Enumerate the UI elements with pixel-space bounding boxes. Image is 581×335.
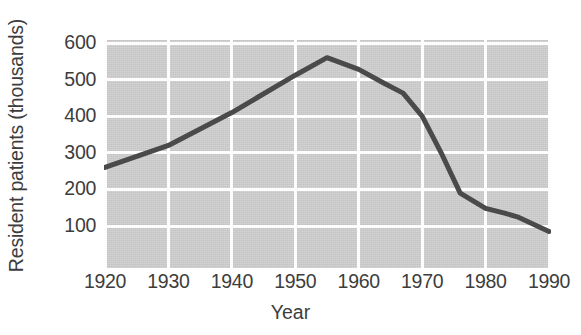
chart-figure: Resident patients (thousands) 1002003004… — [0, 0, 581, 335]
x-axis-tick-labels: 19201930194019501960197019801990 — [0, 272, 581, 298]
x-tick-label-1990: 1990 — [514, 272, 581, 292]
y-tick-label-600: 600 — [38, 33, 96, 53]
x-tick-label-1930: 1930 — [133, 272, 203, 292]
x-axis-title: Year — [0, 301, 581, 324]
x-tick-label-1950: 1950 — [260, 272, 330, 292]
y-tick-label-100: 100 — [38, 216, 96, 236]
y-axis-title-text: Resident patients (thousands) — [6, 18, 29, 271]
x-tick-label-1960: 1960 — [324, 272, 394, 292]
x-tick-label-1940: 1940 — [197, 272, 267, 292]
x-tick-label-1920: 1920 — [70, 272, 140, 292]
x-tick-label-1980: 1980 — [451, 272, 521, 292]
x-tick-label-1970: 1970 — [387, 272, 457, 292]
y-tick-label-300: 300 — [38, 143, 96, 163]
series-line-resident-patients — [104, 40, 551, 268]
y-tick-label-200: 200 — [38, 179, 96, 199]
y-tick-label-500: 500 — [38, 70, 96, 90]
plot-area — [104, 40, 551, 268]
y-tick-label-400: 400 — [38, 106, 96, 126]
y-axis-title: Resident patients (thousands) — [0, 0, 34, 290]
